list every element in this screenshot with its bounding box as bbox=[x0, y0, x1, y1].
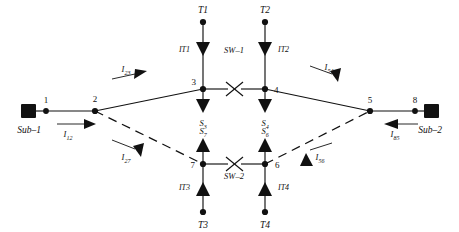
node-6-dot[interactable] bbox=[262, 161, 268, 167]
node-2-dot[interactable] bbox=[92, 108, 98, 114]
terminal-t3-dot[interactable] bbox=[200, 209, 206, 215]
current-i56-arrow-icon bbox=[300, 153, 313, 166]
load-s7-arrow-icon bbox=[196, 138, 210, 152]
current-i85-arrow-icon bbox=[384, 119, 398, 129]
transfer-it2-label: IT2 bbox=[277, 45, 289, 54]
edge-node2-to-node7 bbox=[95, 111, 203, 164]
node-6-label: 6 bbox=[275, 160, 280, 170]
current-i23-arrow-icon bbox=[134, 69, 147, 79]
terminal-t2-label: T2 bbox=[260, 5, 270, 15]
transfer-it4-arrow-icon bbox=[258, 182, 272, 196]
current-i12-arrow-icon bbox=[84, 119, 96, 129]
terminal-t2-dot[interactable] bbox=[262, 19, 268, 25]
node-4-label: 4 bbox=[274, 85, 279, 95]
node-7-dot[interactable] bbox=[200, 161, 206, 167]
switch-sw2-symbol[interactable] bbox=[226, 157, 243, 171]
current-i27-label: I27 bbox=[121, 152, 132, 164]
node-4-dot[interactable] bbox=[262, 86, 268, 92]
transfer-it4-label: IT4 bbox=[277, 183, 289, 192]
terminal-t4-label: T4 bbox=[260, 220, 270, 230]
node-7-label: 7 bbox=[191, 160, 196, 170]
node-3-label: 3 bbox=[192, 77, 197, 87]
substation-sub2-label: Sub–2 bbox=[418, 125, 442, 135]
terminal-t1-dot[interactable] bbox=[200, 19, 206, 25]
transfer-it3-label: IT3 bbox=[178, 183, 190, 192]
current-i56-shaft bbox=[310, 143, 332, 150]
transfer-it1-arrow-icon bbox=[196, 42, 210, 56]
node-3-dot[interactable] bbox=[200, 86, 206, 92]
substation-sub1-label: Sub–1 bbox=[17, 125, 41, 135]
current-i23-label: I23 bbox=[121, 64, 131, 76]
node-2-label: 2 bbox=[93, 94, 98, 104]
load-s6-arrow-icon bbox=[258, 138, 272, 152]
load-s4-arrow-icon bbox=[258, 99, 272, 113]
current-i85-label: I85 bbox=[390, 129, 400, 141]
node-5-label: 5 bbox=[368, 95, 373, 105]
substation-sub2-block[interactable] bbox=[424, 104, 439, 118]
current-i12-label: I12 bbox=[63, 129, 73, 141]
load-s3-arrow-icon bbox=[196, 99, 210, 113]
current-i56-label: I56 bbox=[315, 152, 325, 164]
substation-sub1-block[interactable] bbox=[21, 104, 36, 118]
single-line-diagram: T1 T2 T3 T4 IT1 IT2 IT3 IT4 3 4 1 2 5 8 … bbox=[0, 0, 459, 232]
current-i27-shaft bbox=[112, 140, 135, 149]
node-8-label: 8 bbox=[413, 95, 418, 105]
diagram-canvas: T1 T2 T3 T4 IT1 IT2 IT3 IT4 3 4 1 2 5 8 … bbox=[0, 0, 459, 232]
edge-node2-to-node3 bbox=[95, 89, 203, 111]
node-8-dot[interactable] bbox=[412, 108, 418, 114]
current-i27-arrow-icon bbox=[133, 143, 144, 157]
switch-sw1-symbol[interactable] bbox=[226, 82, 243, 96]
switch-sw2-label: SW–2 bbox=[224, 171, 245, 181]
current-i54-label: I54 bbox=[324, 62, 334, 74]
node-5-dot[interactable] bbox=[367, 108, 373, 114]
transfer-it3-arrow-icon bbox=[196, 182, 210, 196]
switch-sw1-label: SW–1 bbox=[224, 45, 244, 55]
terminal-t4-dot[interactable] bbox=[262, 209, 268, 215]
terminal-t1-label: T1 bbox=[198, 5, 208, 15]
terminal-t3-label: T3 bbox=[198, 220, 208, 230]
edge-node4-to-node5 bbox=[265, 89, 370, 111]
transfer-it2-arrow-icon bbox=[258, 42, 272, 56]
node-1-dot[interactable] bbox=[43, 108, 49, 114]
node-1-label: 1 bbox=[44, 95, 49, 105]
transfer-it1-label: IT1 bbox=[178, 45, 190, 54]
